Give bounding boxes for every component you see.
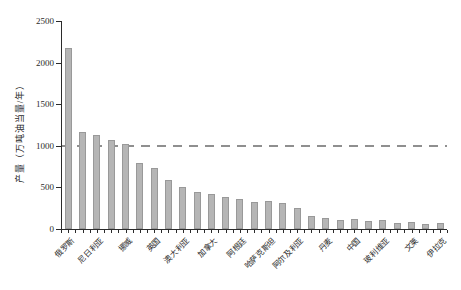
x-category-label: 丹麦 — [316, 236, 334, 254]
bar — [265, 201, 272, 229]
x-tick-mark — [176, 230, 177, 233]
x-category-label: 挪威 — [116, 236, 134, 254]
bar — [351, 219, 358, 229]
x-tick-mark — [147, 230, 148, 233]
x-category-label: 阿根廷 — [225, 236, 248, 259]
x-tick-mark — [233, 230, 234, 233]
x-tick-mark — [90, 230, 91, 233]
x-tick-mark — [204, 230, 205, 233]
x-tick-mark — [383, 230, 384, 233]
x-tick-mark — [133, 230, 134, 233]
x-tick-mark — [197, 230, 198, 233]
reference-dashed-line — [61, 145, 447, 147]
x-tick-mark — [254, 230, 255, 233]
bar — [222, 197, 229, 229]
x-tick-mark — [297, 230, 298, 233]
y-tick-label: 500 — [20, 183, 54, 192]
x-tick-mark — [190, 230, 191, 233]
x-category-label: 加拿大 — [196, 236, 219, 259]
x-tick-mark — [347, 230, 348, 233]
x-category-label: 文莱 — [402, 236, 420, 254]
x-tick-mark — [440, 230, 441, 233]
bar — [151, 168, 158, 229]
x-tick-mark — [218, 230, 219, 233]
x-tick-mark — [283, 230, 284, 233]
y-tick-mark — [56, 21, 61, 22]
x-tick-mark — [269, 230, 270, 233]
bar — [108, 140, 115, 229]
x-tick-mark — [376, 230, 377, 233]
y-tick-label: 2000 — [20, 59, 54, 68]
x-tick-mark — [319, 230, 320, 233]
x-tick-mark — [154, 230, 155, 233]
x-tick-mark — [426, 230, 427, 233]
x-tick-mark — [311, 230, 312, 233]
x-tick-mark — [75, 230, 76, 233]
bar — [208, 194, 215, 229]
bar — [337, 220, 344, 229]
x-tick-mark — [126, 230, 127, 233]
x-tick-mark — [211, 230, 212, 233]
y-axis-line — [61, 21, 62, 230]
bar — [165, 180, 172, 229]
bar — [365, 221, 372, 229]
bar — [379, 220, 386, 229]
x-tick-mark — [340, 230, 341, 233]
bar — [236, 199, 243, 229]
x-tick-mark — [304, 230, 305, 233]
x-tick-mark — [240, 230, 241, 233]
x-tick-mark — [104, 230, 105, 233]
x-tick-mark — [161, 230, 162, 233]
x-category-label: 俄罗斯 — [53, 236, 76, 259]
x-tick-mark — [326, 230, 327, 233]
x-tick-mark — [419, 230, 420, 233]
bar — [194, 192, 201, 229]
y-tick-label: 1000 — [20, 142, 54, 151]
bar — [322, 218, 329, 229]
x-tick-mark — [97, 230, 98, 233]
x-tick-mark — [276, 230, 277, 233]
bar — [65, 48, 72, 229]
x-category-label: 澳大利亚 — [162, 236, 191, 265]
x-tick-mark — [412, 230, 413, 233]
y-tick-label: 1500 — [20, 100, 54, 109]
y-tick-mark — [56, 187, 61, 188]
y-tick-label: 0 — [20, 225, 54, 234]
y-tick-mark — [56, 104, 61, 105]
bar — [136, 163, 143, 229]
x-tick-mark — [390, 230, 391, 233]
y-axis-title: 产量（万吨油当量/年） — [13, 77, 26, 187]
x-category-label: 中国 — [345, 236, 363, 254]
x-category-label: 玻利维亚 — [362, 236, 391, 265]
bar — [122, 144, 129, 229]
x-tick-mark — [369, 230, 370, 233]
bar — [279, 203, 286, 229]
x-tick-mark — [226, 230, 227, 233]
x-tick-mark — [261, 230, 262, 233]
x-tick-mark — [61, 230, 62, 233]
x-tick-mark — [354, 230, 355, 233]
x-tick-mark — [118, 230, 119, 233]
bar-chart-figure: 产量（万吨油当量/年） 05001000150020002500 俄罗斯尼日利亚… — [0, 0, 461, 290]
x-tick-mark — [83, 230, 84, 233]
x-tick-mark — [111, 230, 112, 233]
bar — [294, 208, 301, 229]
y-tick-label: 2500 — [20, 17, 54, 26]
x-category-label: 英国 — [145, 236, 163, 254]
y-tick-mark — [56, 63, 61, 64]
x-tick-mark — [183, 230, 184, 233]
x-tick-mark — [447, 230, 448, 233]
x-tick-mark — [333, 230, 334, 233]
x-tick-mark — [397, 230, 398, 233]
x-tick-mark — [168, 230, 169, 233]
x-tick-mark — [404, 230, 405, 233]
bar — [308, 216, 315, 229]
x-tick-mark — [140, 230, 141, 233]
plot-area: 产量（万吨油当量/年） 05001000150020002500 俄罗斯尼日利亚… — [0, 0, 461, 290]
x-tick-mark — [247, 230, 248, 233]
x-tick-mark — [290, 230, 291, 233]
bar — [179, 187, 186, 229]
x-tick-mark — [361, 230, 362, 233]
x-tick-mark — [433, 230, 434, 233]
bar — [79, 132, 86, 229]
